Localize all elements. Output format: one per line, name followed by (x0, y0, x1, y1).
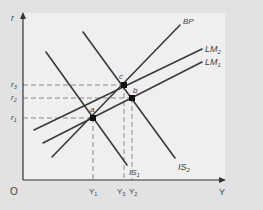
r3-label: r3 (11, 80, 18, 90)
r1-label: r1 (11, 113, 17, 123)
point-a-label: a (90, 105, 95, 114)
y1-label: Y1 (89, 187, 97, 197)
y-axis-label: r (11, 13, 15, 23)
y3-label: Y3 (117, 187, 125, 197)
point-a (90, 115, 96, 121)
r2-label: r2 (11, 93, 17, 103)
point-c-label: c (119, 72, 123, 81)
is-lm-bp-diagram: r Y O BP LM2 LM1 IS1 IS2 a b c r3 r2 r1 … (0, 0, 263, 210)
x-axis-label: Y (219, 187, 225, 197)
bp-label: BP (183, 17, 194, 26)
point-b-label: b (133, 86, 138, 95)
y2-label: Y2 (129, 187, 137, 197)
origin-label: O (10, 186, 18, 197)
point-b (129, 95, 135, 101)
point-c (121, 82, 127, 88)
